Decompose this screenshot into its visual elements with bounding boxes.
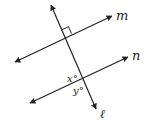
- angle-x-label: x°: [67, 73, 78, 84]
- angle-y-label: y°: [72, 85, 84, 96]
- label-n: n: [132, 48, 140, 63]
- label-l: ℓ: [100, 107, 105, 121]
- parallel-lines-diagram: m n ℓ x° y°: [0, 0, 150, 126]
- label-m: m: [116, 8, 128, 23]
- line-m: [15, 16, 112, 62]
- line-n: [30, 57, 128, 103]
